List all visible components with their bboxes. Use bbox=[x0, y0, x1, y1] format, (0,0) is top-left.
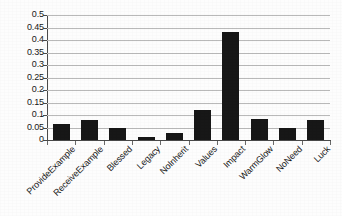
y-axis-tick-label: 0.05 bbox=[2, 123, 44, 132]
y-axis-tick-label: 0.2 bbox=[2, 85, 44, 94]
gridline bbox=[47, 78, 330, 79]
y-axis-tick-label: 0.25 bbox=[2, 73, 44, 82]
gridline bbox=[47, 90, 330, 91]
bar bbox=[251, 119, 268, 140]
bar bbox=[166, 133, 183, 140]
gridline bbox=[47, 115, 330, 116]
gridline bbox=[47, 65, 330, 66]
y-axis-tick-label: 0.5 bbox=[2, 10, 44, 19]
gridline bbox=[47, 40, 330, 41]
gridline bbox=[47, 15, 330, 16]
bar bbox=[81, 120, 98, 140]
gridline bbox=[47, 53, 330, 54]
y-axis-tick-label: 0.1 bbox=[2, 110, 44, 119]
bar bbox=[279, 128, 296, 141]
x-axis-category-labels: ProvideExampleReceiveExampleBlessedLegac… bbox=[0, 140, 342, 216]
chart-figure: 00.050.10.150.20.250.30.350.40.450.5 Pro… bbox=[0, 0, 342, 216]
bar bbox=[222, 32, 239, 140]
y-axis-tick-label: 0.4 bbox=[2, 35, 44, 44]
plot-area bbox=[47, 15, 330, 140]
bar bbox=[53, 124, 70, 140]
bar bbox=[194, 110, 211, 140]
gridline bbox=[47, 103, 330, 104]
y-axis-tick-label: 0.45 bbox=[2, 23, 44, 32]
y-axis-tick-label: 0.15 bbox=[2, 98, 44, 107]
bar bbox=[109, 128, 126, 140]
y-axis-tick-label: 0.3 bbox=[2, 60, 44, 69]
bar bbox=[307, 120, 324, 140]
gridline bbox=[47, 28, 330, 29]
y-axis-tick-label: 0.35 bbox=[2, 48, 44, 57]
